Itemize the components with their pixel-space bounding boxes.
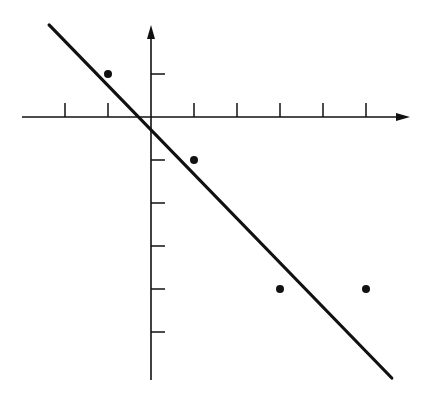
axis-ticks: [65, 74, 366, 332]
data-point: [190, 156, 198, 164]
y-axis-arrow-icon: [147, 25, 155, 39]
x-axis-arrow-icon: [396, 113, 410, 121]
axes: [22, 25, 410, 380]
data-point: [362, 285, 370, 293]
fitted-line-segment: [49, 25, 392, 378]
data-point: [104, 70, 112, 78]
scatter-plot-with-fitted-line: [0, 0, 430, 407]
fitted-line: [49, 25, 392, 378]
data-point: [276, 285, 284, 293]
